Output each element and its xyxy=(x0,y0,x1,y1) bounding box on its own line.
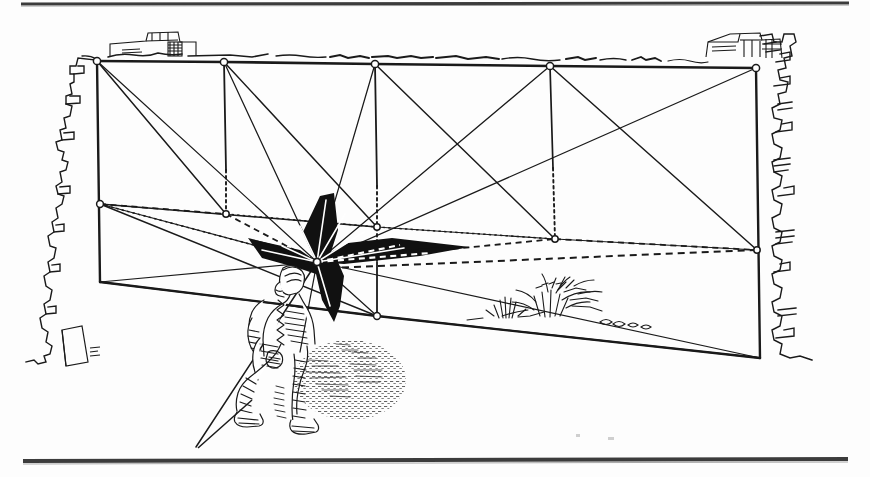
ragged-right-edge xyxy=(760,34,812,360)
page-specks xyxy=(576,434,614,440)
kneeling-figure xyxy=(234,266,318,434)
skyline-right xyxy=(706,33,782,58)
construction-nodes xyxy=(93,57,760,319)
foliage-sketch xyxy=(467,274,651,329)
ragged-left-edge xyxy=(26,58,96,364)
drawing-canvas xyxy=(0,0,870,477)
top-rule xyxy=(21,3,849,6)
panel-diagonals xyxy=(97,61,760,358)
left-marker-block xyxy=(62,326,100,366)
skyline-left xyxy=(110,32,196,56)
perspective-drawing-figure: Two-point perspective construction with … xyxy=(0,0,870,477)
perspective-box-edges xyxy=(97,61,760,358)
bottom-rule xyxy=(23,459,848,464)
